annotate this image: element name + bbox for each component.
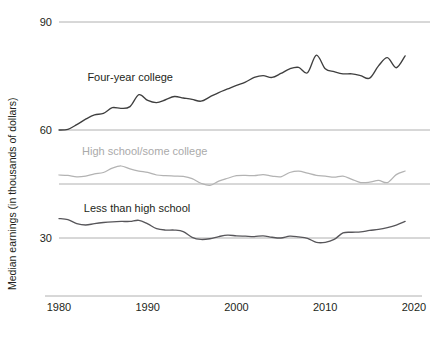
series-label-four-year-college: Four-year college bbox=[87, 71, 173, 83]
chart-container: 906030 19801990200020102020 Four-year co… bbox=[0, 0, 436, 341]
x-tick-label-1980: 1980 bbox=[47, 301, 71, 313]
line-chart: 906030 19801990200020102020 Four-year co… bbox=[0, 0, 436, 341]
x-tick-label-2010: 2010 bbox=[313, 301, 337, 313]
y-axis-title: Median earnings (in thousands of dollars… bbox=[6, 97, 18, 290]
y-tick-label-60: 60 bbox=[40, 124, 52, 136]
y-tick-label-90: 90 bbox=[40, 16, 52, 28]
series-line-high-school-some-college bbox=[59, 166, 405, 186]
series-labels: Four-year collegeHigh school/some colleg… bbox=[82, 71, 207, 214]
series-label-less-than-high-school: Less than high school bbox=[84, 202, 190, 214]
series-line-less-than-high-school bbox=[59, 219, 405, 243]
series-line-four-year-college bbox=[59, 55, 405, 130]
x-tick-label-2020: 2020 bbox=[402, 301, 426, 313]
y-tick-label-30: 30 bbox=[40, 232, 52, 244]
series-label-high-school-some-college: High school/some college bbox=[82, 145, 207, 157]
x-axis-ticks: 19801990200020102020 bbox=[47, 301, 426, 313]
x-tick-label-1990: 1990 bbox=[136, 301, 160, 313]
y-axis-ticks: 906030 bbox=[40, 16, 52, 244]
x-tick-label-2000: 2000 bbox=[224, 301, 248, 313]
